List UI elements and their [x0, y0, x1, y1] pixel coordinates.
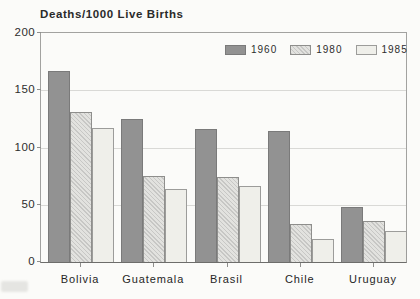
bar-uruguay-1960: [341, 207, 363, 262]
bar-guatemala-1980: [143, 176, 165, 262]
scan-smudge-artifact: [1, 281, 28, 292]
bar-bolivia-1985: [92, 128, 114, 262]
bar-brasil-1980: [217, 177, 239, 262]
bar-guatemala-1985: [165, 189, 187, 262]
gridline-150: [41, 90, 406, 91]
x-tick-mark-chile: [300, 263, 301, 267]
bar-chile-1960: [268, 131, 290, 262]
legend: 1960 1980 1985: [225, 44, 408, 55]
y-tick-mark-200: [37, 32, 41, 33]
x-label-uruguay: Uruguay: [333, 273, 413, 285]
x-tick-mark-guatemala: [153, 263, 154, 267]
y-tick-50: 50: [0, 198, 35, 210]
y-tick-0: 0: [0, 255, 35, 267]
chart-title: Deaths/1000 Live Births: [40, 8, 184, 20]
legend-label-1985: 1985: [382, 44, 408, 55]
y-tick-150: 150: [0, 83, 35, 95]
y-tick-100: 100: [0, 141, 35, 153]
bar-bolivia-1960: [48, 71, 70, 262]
y-tick-mark-50: [37, 204, 41, 205]
bar-chile-1985: [312, 239, 334, 262]
legend-label-1960: 1960: [251, 44, 277, 55]
y-tick-mark-0: [37, 261, 41, 262]
bar-bolivia-1980: [70, 112, 92, 262]
x-label-chile: Chile: [260, 273, 340, 285]
bar-brasil-1960: [195, 129, 217, 262]
x-label-brasil: Brasil: [187, 273, 267, 285]
y-tick-mark-100: [37, 147, 41, 148]
y-tick-mark-150: [37, 89, 41, 90]
legend-swatch-1985: [356, 45, 377, 55]
legend-swatch-1960: [225, 45, 246, 55]
x-tick-mark-uruguay: [373, 263, 374, 267]
y-tick-200: 200: [0, 26, 35, 38]
bar-uruguay-1980: [363, 221, 385, 262]
x-label-guatemala: Guatemala: [113, 273, 193, 285]
legend-item-1960: 1960: [225, 44, 277, 55]
legend-item-1980: 1980: [290, 44, 342, 55]
bar-chile-1980: [290, 224, 312, 262]
infant-mortality-bar-chart: Deaths/1000 Live Births 1960 1980 1985 0…: [0, 0, 420, 299]
plot-area: 1960 1980 1985: [40, 32, 407, 263]
x-label-bolivia: Bolivia: [40, 273, 120, 285]
bar-brasil-1985: [239, 186, 261, 262]
x-tick-mark-brasil: [227, 263, 228, 267]
legend-swatch-1980: [290, 45, 311, 55]
legend-label-1980: 1980: [316, 44, 342, 55]
bar-uruguay-1985: [385, 231, 407, 262]
bar-guatemala-1960: [121, 119, 143, 262]
legend-item-1985: 1985: [356, 44, 408, 55]
x-tick-mark-bolivia: [80, 263, 81, 267]
